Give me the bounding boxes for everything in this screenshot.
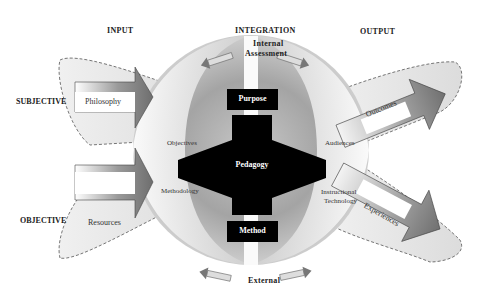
row-label-subjective: SUBJECTIVE (16, 97, 66, 106)
row-label-objective: OBJECTIVE (20, 216, 66, 225)
header-output: OUTPUT (360, 27, 395, 36)
diagram: INPUT INTEGRATION OUTPUT SUBJECTIVE OBJE… (0, 0, 485, 289)
pedagogy-label: Pedagogy (222, 160, 282, 169)
diagram-graphics (0, 0, 485, 289)
external-arrow-left-icon (198, 266, 232, 284)
internal-label-line1: Internal (253, 39, 283, 48)
external-arrow-right-icon (279, 265, 313, 283)
internal-label-line2: Assessment (245, 49, 287, 58)
objectives-label: Objectives (167, 139, 197, 147)
external-label: External (248, 276, 280, 285)
input-resources-label: Resources (88, 218, 121, 227)
method-label: Method (227, 226, 278, 235)
audiences-label: Audiences (325, 139, 355, 147)
input-philosophy-label: Philosophy (85, 97, 121, 106)
instructional-technology-label-1: Instructional (321, 188, 356, 196)
header-integration: INTEGRATION (235, 26, 296, 35)
purpose-label: Purpose (227, 94, 278, 103)
instructional-technology-label-2: Technology (324, 197, 357, 205)
header-input: INPUT (107, 26, 133, 35)
methodology-label: Methodology (161, 187, 199, 195)
